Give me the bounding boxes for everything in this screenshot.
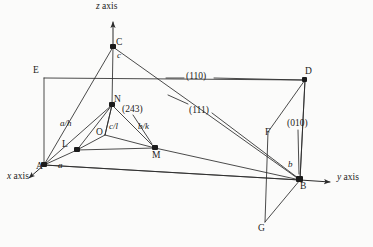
z-axis-label-rest: axis: [100, 1, 118, 11]
miller-index-111: (111): [189, 106, 209, 116]
miller-index-010: (010): [287, 119, 308, 129]
intercept-label-b-over-k: b/k: [138, 122, 149, 131]
plane-111-outline: [44, 47, 300, 180]
vertex-label-M: M: [152, 151, 160, 161]
x-axis-label: x axis: [7, 172, 29, 182]
intercept-label-a: a: [58, 161, 63, 170]
vertex-label-D: D: [305, 67, 312, 77]
plane-010-outline: [265, 80, 305, 222]
figure-drawing: [0, 0, 373, 247]
axis-lines: [29, 22, 330, 182]
crystal-axes-figure: z axis x axis y axis A B C D E F G L M N…: [0, 0, 373, 247]
vertex-label-G: G: [258, 224, 265, 234]
vertex-label-O: O: [96, 128, 103, 138]
intercept-label-c-over-l: c/l: [109, 122, 118, 131]
vertex-label-C: C: [116, 38, 122, 48]
miller-index-243: (243): [122, 105, 143, 115]
vertex-label-N: N: [114, 95, 121, 105]
y-axis-label: y axis: [337, 173, 359, 183]
leader-line-010: [298, 130, 299, 174]
m-to-b-edge: [155, 148, 300, 180]
x-axis-label-rest: axis: [11, 171, 29, 181]
miller-index-110: (110): [186, 72, 206, 82]
vertex-label-B: B: [300, 182, 306, 192]
vertex-label-A: A: [36, 162, 43, 172]
y-axis-label-rest: axis: [341, 172, 359, 182]
intercept-label-b: b: [288, 160, 293, 169]
vertex-label-L: L: [62, 140, 68, 150]
vertex-dot-L: [74, 147, 80, 152]
vertex-dot-D: [302, 77, 307, 82]
z-axis-label: z axis: [96, 2, 117, 12]
intercept-label-c: c: [117, 51, 121, 60]
intercept-label-a-over-h: a/h: [60, 119, 72, 128]
vertex-label-E: E: [33, 66, 39, 76]
vertex-label-F: F: [265, 128, 270, 138]
